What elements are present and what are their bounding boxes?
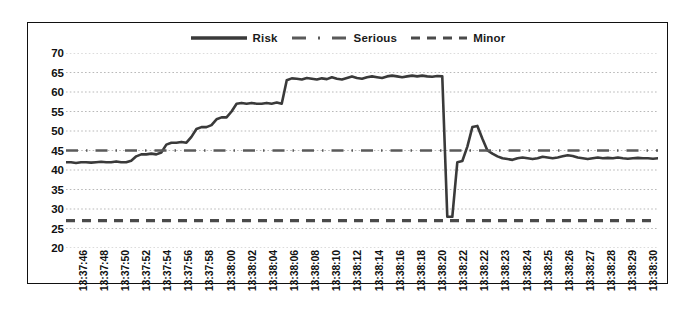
y-tick-65: 65 (51, 67, 64, 79)
x-tick-26: 13:38:29 (626, 250, 638, 291)
y-tick-60: 60 (51, 86, 64, 98)
x-tick-19: 13:38:22 (478, 250, 490, 291)
chart-plot-svg (66, 53, 658, 248)
x-tick-10: 13:38:06 (288, 250, 300, 291)
legend-entry-minor: Minor (410, 32, 505, 44)
plot-area (66, 53, 658, 248)
x-tick-17: 13:38:20 (436, 250, 448, 291)
x-tick-12: 13:38:10 (330, 250, 342, 291)
x-tick-14: 13:38:14 (373, 250, 385, 291)
x-tick-7: 13:38:00 (225, 250, 237, 291)
legend-label-risk: Risk (253, 32, 278, 44)
x-tick-27: 13:38:30 (647, 250, 659, 291)
x-tick-23: 13:38:26 (563, 250, 575, 291)
legend-label-serious: Serious (354, 32, 398, 44)
x-tick-9: 13:38:04 (267, 250, 279, 291)
legend-line-solid-icon (190, 33, 248, 43)
x-tick-20: 13:38:23 (499, 250, 511, 291)
x-tick-6: 13:37:58 (203, 250, 215, 291)
x-tick-3: 13:37:52 (140, 250, 152, 291)
x-tick-4: 13:37:54 (161, 250, 173, 291)
legend-entry-serious: Serious (291, 32, 398, 44)
x-tick-24: 13:38:27 (584, 250, 596, 291)
x-tick-18: 13:38:22 (457, 250, 469, 291)
y-axis-tick-labels: 7065605550454035302520 (32, 53, 64, 248)
data-series-layer (66, 76, 658, 221)
x-tick-21: 13:38:24 (521, 250, 533, 291)
legend-line-dashed-icon (410, 33, 468, 43)
x-tick-1: 13:37:48 (98, 250, 110, 291)
y-tick-35: 35 (51, 184, 64, 196)
legend-label-minor: Minor (473, 32, 505, 44)
x-tick-2: 13:37:50 (119, 250, 131, 291)
y-tick-40: 40 (51, 164, 64, 176)
x-tick-16: 13:38:18 (415, 250, 427, 291)
x-axis-tick-labels: 13:37:4613:37:4813:37:5013:37:5213:37:54… (66, 250, 658, 305)
y-tick-25: 25 (51, 223, 64, 235)
x-tick-25: 13:38:28 (605, 250, 617, 291)
legend-line-dashdot-icon (291, 33, 349, 43)
legend-entry-risk: Risk (190, 32, 278, 44)
y-tick-50: 50 (51, 125, 64, 137)
x-tick-5: 13:37:56 (182, 250, 194, 291)
chart-container: Risk Serious Minor 706560555045403530252… (27, 22, 668, 284)
series-line-risk (66, 76, 658, 217)
x-tick-11: 13:38:08 (309, 250, 321, 291)
x-tick-8: 13:38:02 (246, 250, 258, 291)
x-tick-0: 13:37:46 (77, 250, 89, 291)
y-tick-20: 20 (51, 242, 64, 254)
y-tick-55: 55 (51, 106, 64, 118)
x-tick-22: 13:38:25 (542, 250, 554, 291)
x-tick-13: 13:38:12 (351, 250, 363, 291)
x-tick-15: 13:38:16 (394, 250, 406, 291)
y-tick-45: 45 (51, 145, 64, 157)
y-tick-70: 70 (51, 47, 64, 59)
y-tick-30: 30 (51, 203, 64, 215)
chart-legend: Risk Serious Minor (28, 27, 667, 49)
